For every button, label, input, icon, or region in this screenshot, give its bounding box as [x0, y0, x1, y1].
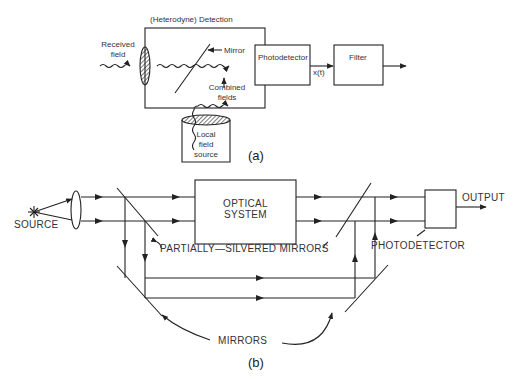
source-label: SOURCE: [14, 220, 59, 230]
collimating-lens: [71, 191, 81, 229]
caption-a: (a): [248, 149, 264, 162]
filter-box: [334, 45, 383, 85]
mirror-label: Mirror: [224, 47, 245, 55]
combined-fields-line2: fields: [207, 94, 247, 102]
mirror-line: [175, 44, 210, 93]
left-mirror: [117, 266, 162, 316]
photodetector-label-b: PHOTODETECTOR: [371, 241, 465, 251]
combined-fields-label: Combined fields: [207, 84, 247, 102]
caption-b: (b): [248, 356, 264, 369]
right-mirror: [345, 265, 388, 312]
optical-system-line1: OPTICAL: [195, 199, 296, 209]
signal-label: x(t): [313, 69, 325, 77]
optical-system-label: OPTICAL SYSTEM: [195, 199, 296, 220]
left-partial-mirror: [117, 188, 158, 236]
partially-silvered-mirrors-label: PARTIALLY—SILVERED MIRRORS: [160, 244, 329, 254]
photodetector-box-b: [425, 190, 456, 228]
right-partial-mirror: [336, 183, 371, 237]
local-source-line3: source: [182, 151, 230, 159]
heterodyne-title: (Heterodyne) Detection: [150, 16, 233, 24]
local-field-source-label: Local field source: [182, 131, 230, 159]
combined-fields-line1: Combined: [207, 84, 247, 92]
local-source-line2: field: [182, 141, 230, 149]
filter-label: Filter: [349, 54, 367, 62]
local-source-line1: Local: [182, 131, 230, 139]
photodetector-label-a: Photodetector: [258, 54, 308, 62]
local-source-top-icon: [182, 115, 230, 125]
received-field-line2: field: [97, 51, 139, 59]
receiver-lens-icon: [140, 47, 150, 85]
figure-a: [100, 28, 406, 162]
heterodyne-detection-box: [145, 28, 265, 108]
received-field-wave: [100, 65, 130, 68]
photodetector-box-a: [255, 45, 310, 85]
output-label: OUTPUT: [462, 193, 505, 203]
received-field-line1: Received: [97, 41, 139, 49]
optical-system-line2: SYSTEM: [195, 210, 296, 220]
received-field-label: Received field: [97, 41, 139, 59]
mirrors-label: MIRRORS: [218, 336, 267, 346]
